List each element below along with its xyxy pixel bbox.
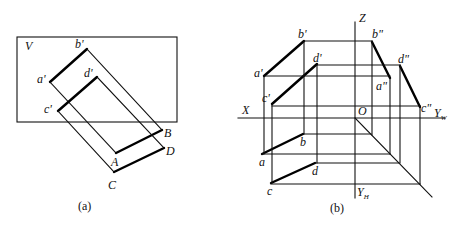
edge-A-B [116,130,162,153]
label-V: V [25,39,34,53]
label-Yh: YH [357,185,370,201]
label-A: A [110,155,119,169]
edge-c-d-dprime [400,66,420,107]
label-O: O [358,104,367,118]
label-b-h: b [300,135,306,149]
label-a-h: a [259,155,265,169]
label-b-dprime: b" [372,27,384,41]
edge-c-d-prime [58,77,97,111]
label-b-prime-a: b' [75,37,84,51]
edge-a-prime-A [50,82,116,153]
label-d-h: d [312,164,319,178]
label-B: B [164,126,172,140]
label-Yw: YW [434,106,448,122]
label-d-prime-b: d' [313,51,322,65]
edge-d-prime-D [97,77,164,148]
edge-a-b-h [262,134,303,154]
edge-c-d-h [271,163,315,183]
label-a-prime-a: a' [37,72,46,86]
label-c-dprime: c" [421,101,432,115]
label-X: X [241,103,250,117]
label-c-prime-b: c' [262,91,270,105]
label-D: D [165,144,175,158]
label-b-prime-b: b' [298,27,307,41]
label-c-h: c [267,184,273,198]
edge-a-b-dprime [372,42,390,78]
edge-c-d-prime-b [272,64,317,104]
label-Z: Z [359,11,366,25]
label-a-dprime: a" [376,79,388,93]
edge-a-b-prime [50,49,87,82]
projection-figure: V b' a' d' c' B D A C (a) [0,0,460,228]
edge-a-b-prime-b [264,41,304,76]
edge-C-D [114,148,164,172]
caption-b: (b) [330,201,344,215]
label-C: C [108,178,117,192]
label-c-prime-a: c' [44,102,52,116]
label-d-prime-a: d' [84,66,93,80]
figure-b: X Z O YW YH b' a' d' c' b" a" d" c" b a … [238,11,448,215]
figure-a: V b' a' d' c' B D A C (a) [17,37,177,213]
label-a-prime-b: a' [254,66,263,80]
caption-a: (a) [78,199,91,213]
label-d-dprime: d" [398,52,410,66]
edge-b-prime-B [87,49,162,130]
